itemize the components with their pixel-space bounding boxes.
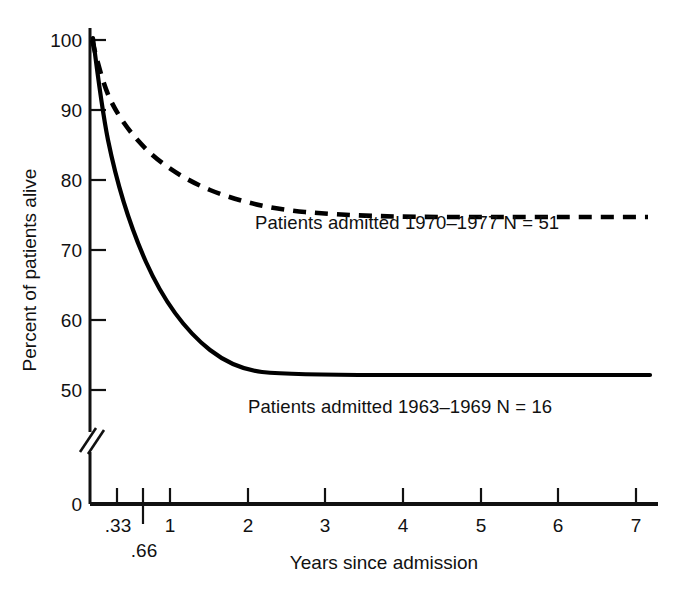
- y-axis-break-icon: [80, 428, 104, 454]
- y-tick-label-80: 80: [61, 170, 82, 191]
- x-tick-label-2: 2: [243, 515, 254, 536]
- x-tick-label-6: 6: [553, 515, 564, 536]
- series-line-1963-1969: [93, 38, 650, 375]
- chart-canvas: 100 90 80 70 60 50 0 .33 .66 1 2 3 4 5 6…: [0, 0, 678, 589]
- y-axis-title: Percent of patients alive: [19, 169, 40, 372]
- y-tick-label-0: 0: [71, 494, 82, 515]
- x-axis-title: Years since admission: [290, 552, 478, 573]
- x-tick-label-4: 4: [398, 515, 409, 536]
- x-tick-label-7: 7: [631, 515, 642, 536]
- y-tick-label-70: 70: [61, 240, 82, 261]
- x-tick-label-1: 1: [165, 515, 176, 536]
- series-annotation-1970-1977: Patients admitted 1970–1977 N = 51: [255, 212, 559, 233]
- y-tick-marks: [90, 40, 106, 390]
- y-tick-label-90: 90: [61, 100, 82, 121]
- axis-group: [80, 28, 658, 504]
- y-tick-label-60: 60: [61, 310, 82, 331]
- series-line-1970-1977: [92, 40, 648, 217]
- series-annotation-1963-1969: Patients admitted 1963–1969 N = 16: [248, 396, 552, 417]
- y-tick-label-50: 50: [61, 380, 82, 401]
- y-tick-label-100: 100: [50, 30, 82, 51]
- x-tick-label-5: 5: [476, 515, 487, 536]
- x-tick-label-0-66: .66: [131, 540, 157, 561]
- x-tick-label-0-33: .33: [105, 515, 131, 536]
- x-tick-label-3: 3: [320, 515, 331, 536]
- figure-survival-chart: 100 90 80 70 60 50 0 .33 .66 1 2 3 4 5 6…: [0, 0, 678, 589]
